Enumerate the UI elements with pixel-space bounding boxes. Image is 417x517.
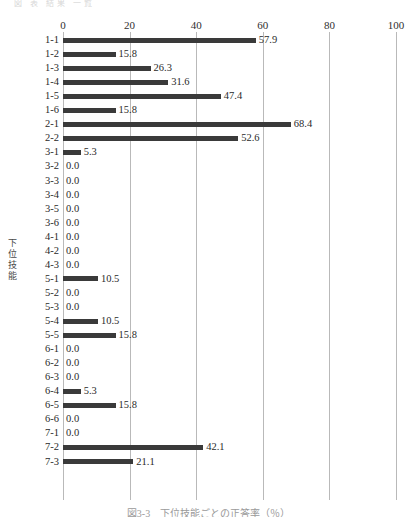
bar-value-label: 31.6	[171, 75, 189, 89]
y-axis-category-label: 4-3	[28, 258, 59, 272]
bar-value-label: 0.0	[66, 188, 79, 202]
bar	[63, 445, 203, 450]
bar-value-label: 0.0	[66, 258, 79, 272]
bar-value-label: 0.0	[66, 286, 79, 300]
chart-row: 6-45.3	[0, 384, 417, 398]
y-axis-category-label: 5-2	[28, 286, 59, 300]
bar	[63, 136, 238, 141]
chart-row: 3-20.0	[0, 159, 417, 173]
bar	[63, 108, 116, 113]
bar-value-label: 15.8	[119, 398, 137, 412]
bar-value-label: 0.0	[66, 412, 79, 426]
y-axis-category-label: 2-2	[28, 131, 59, 145]
chart-row: 6-515.8	[0, 398, 417, 412]
y-axis-category-label: 1-6	[28, 103, 59, 117]
bar-value-label: 0.0	[66, 300, 79, 314]
bar	[63, 333, 116, 338]
x-axis-tick-label: 80	[324, 19, 335, 31]
bar-value-label: 10.5	[101, 314, 119, 328]
bar-value-label: 0.0	[66, 370, 79, 384]
bar	[63, 150, 81, 155]
chart-row: 1-547.4	[0, 89, 417, 103]
bar-value-label: 0.0	[66, 342, 79, 356]
y-axis-category-label: 7-2	[28, 440, 59, 454]
y-axis-category-label: 7-1	[28, 426, 59, 440]
bar-value-label: 0.0	[66, 159, 79, 173]
y-axis-category-label: 5-3	[28, 300, 59, 314]
y-axis-category-label: 3-6	[28, 216, 59, 230]
bar-value-label: 15.8	[119, 47, 137, 61]
x-axis-tick-label: 20	[124, 19, 135, 31]
chart-row: 6-30.0	[0, 370, 417, 384]
bar	[63, 389, 81, 394]
bar-value-label: 0.0	[66, 216, 79, 230]
y-axis-category-label: 3-4	[28, 188, 59, 202]
y-axis-category-label: 6-1	[28, 342, 59, 356]
chart-row: 7-242.1	[0, 440, 417, 454]
bar-value-label: 0.0	[66, 244, 79, 258]
chart-row: 4-10.0	[0, 230, 417, 244]
bar-value-label: 52.6	[241, 131, 259, 145]
bar-value-label: 10.5	[101, 272, 119, 286]
bar	[63, 122, 291, 127]
bar-value-label: 0.0	[66, 230, 79, 244]
bar	[63, 80, 168, 85]
bar-value-label: 5.3	[84, 384, 97, 398]
bar-value-label: 57.9	[259, 33, 277, 47]
bar-value-label: 68.4	[294, 117, 312, 131]
chart-row: 5-515.8	[0, 328, 417, 342]
y-axis-category-label: 5-5	[28, 328, 59, 342]
chart-row: 2-252.6	[0, 131, 417, 145]
y-axis-category-label: 6-2	[28, 356, 59, 370]
clipped-header-text: 図 表 結果 一覧	[14, 0, 95, 7]
bar-value-label: 26.3	[154, 61, 172, 75]
bar	[63, 52, 116, 57]
chart-row: 2-168.4	[0, 117, 417, 131]
y-axis-category-label: 7-3	[28, 455, 59, 469]
chart-row: 6-60.0	[0, 412, 417, 426]
bar	[63, 459, 133, 464]
bar	[63, 38, 256, 43]
bar-value-label: 0.0	[66, 426, 79, 440]
chart-row: 3-30.0	[0, 174, 417, 188]
bar-value-label: 15.8	[119, 103, 137, 117]
chart-row: 1-215.8	[0, 47, 417, 61]
y-axis-category-label: 6-3	[28, 370, 59, 384]
x-axis-tick-label: 40	[191, 19, 202, 31]
bar	[63, 66, 151, 71]
y-axis-category-label: 3-3	[28, 174, 59, 188]
chart-row: 3-15.3	[0, 145, 417, 159]
x-axis-tick-label: 100	[388, 19, 405, 31]
chart-row: 1-157.9	[0, 33, 417, 47]
chart-row: 5-110.5	[0, 272, 417, 286]
y-axis-category-label: 2-1	[28, 117, 59, 131]
x-axis-tick-label: 0	[60, 19, 66, 31]
y-axis-category-label: 3-1	[28, 145, 59, 159]
bar-value-label: 15.8	[119, 328, 137, 342]
y-axis-category-label: 5-1	[28, 272, 59, 286]
chart-row: 5-20.0	[0, 286, 417, 300]
y-axis-category-label: 6-5	[28, 398, 59, 412]
y-axis-category-label: 4-2	[28, 244, 59, 258]
y-axis-category-label: 1-3	[28, 61, 59, 75]
bar	[63, 403, 116, 408]
y-axis-category-label: 1-2	[28, 47, 59, 61]
bar-value-label: 47.4	[224, 89, 242, 103]
chart-row: 3-50.0	[0, 202, 417, 216]
chart-row: 4-20.0	[0, 244, 417, 258]
y-axis-category-label: 6-6	[28, 412, 59, 426]
y-axis-category-label: 1-5	[28, 89, 59, 103]
chart-row: 1-615.8	[0, 103, 417, 117]
bar-value-label: 0.0	[66, 356, 79, 370]
bar	[63, 276, 98, 281]
bar-value-label: 42.1	[206, 440, 224, 454]
chart-row: 3-60.0	[0, 216, 417, 230]
bar-value-label: 5.3	[84, 145, 97, 159]
chart-row: 6-20.0	[0, 356, 417, 370]
y-axis-category-label: 6-4	[28, 384, 59, 398]
chart-row: 1-431.6	[0, 75, 417, 89]
chart-row: 7-10.0	[0, 426, 417, 440]
chart-row: 4-30.0	[0, 258, 417, 272]
bar	[63, 319, 98, 324]
y-axis-category-label: 1-4	[28, 75, 59, 89]
